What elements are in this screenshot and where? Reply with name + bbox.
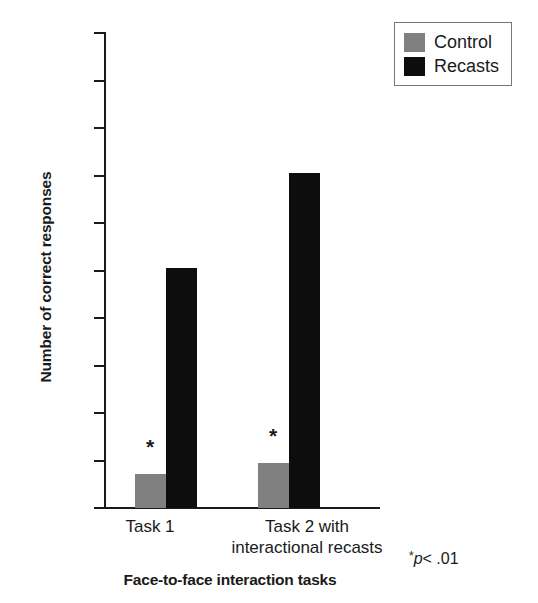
legend-item-recasts[interactable]: Recasts — [404, 54, 499, 78]
x-axis-category-label-1-line-1: Task 1 — [100, 516, 200, 537]
x-axis-category-label-2-line-2: interactional recasts — [222, 537, 392, 558]
bars-layer: ** — [0, 33, 538, 508]
legend-swatch-control-icon — [404, 33, 425, 52]
bar-recasts-group2[interactable] — [289, 173, 320, 508]
x-axis-category-label-2-line-1: Task 2 with — [222, 516, 392, 537]
significance-footnote: *p< .01 — [409, 549, 459, 568]
legend-swatch-recasts-icon — [404, 57, 425, 76]
x-axis-category-label-1: Task 1 — [100, 516, 200, 537]
bar-control-group2[interactable] — [258, 463, 289, 508]
significance-star-task1: * — [146, 436, 154, 457]
legend: Control Recasts — [394, 22, 512, 86]
bar-chart: Number of correct responses 109876543210… — [0, 0, 538, 603]
x-axis-category-label-2: Task 2 with interactional recasts — [222, 516, 392, 558]
footnote-p-symbol: p — [414, 550, 423, 567]
legend-label-recasts: Recasts — [434, 57, 499, 75]
bar-recasts-group1[interactable] — [166, 268, 197, 508]
legend-label-control: Control — [434, 33, 492, 51]
significance-star-task2: * — [269, 425, 277, 446]
legend-item-control[interactable]: Control — [404, 30, 499, 54]
bar-control-group1[interactable] — [135, 474, 166, 508]
footnote-comparison: < .01 — [423, 550, 459, 567]
x-axis-title: Face-to-face interaction tasks — [0, 571, 460, 589]
